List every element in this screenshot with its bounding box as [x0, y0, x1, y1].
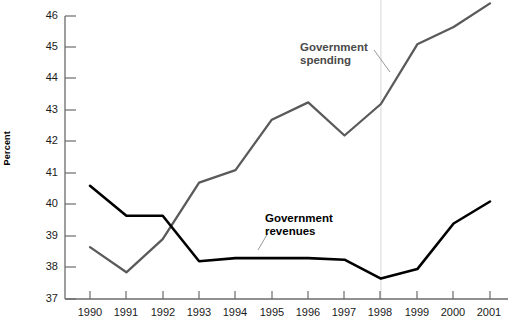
- x-tick-label-1990: 1990: [70, 306, 110, 318]
- y-axis-ticks: [65, 16, 76, 299]
- x-tick-label-1992: 1992: [143, 306, 183, 318]
- x-tick-label-1991: 1991: [106, 306, 146, 318]
- series-label-government-spending: Government spending: [300, 41, 368, 67]
- leader-line-spending: [374, 50, 390, 72]
- y-tick-label-43: 43: [28, 103, 58, 115]
- x-tick-label-1999: 1999: [397, 306, 437, 318]
- y-tick-label-37: 37: [28, 292, 58, 304]
- series-label-revenues-line1: Government: [265, 212, 333, 225]
- chart-container: Percent 46 45 44 43 42 41 40 39 38 37 19…: [0, 0, 509, 328]
- y-tick-label-42: 42: [28, 134, 58, 146]
- x-tick-label-1996: 1996: [288, 306, 328, 318]
- y-axis-title: Percent: [2, 131, 16, 165]
- chart-plot-area: [0, 0, 509, 328]
- y-tick-label-38: 38: [28, 260, 58, 272]
- series-label-spending-line2: spending: [300, 54, 368, 67]
- x-tick-label-1998: 1998: [360, 306, 400, 318]
- series-label-revenues-line2: revenues: [265, 225, 333, 238]
- y-tick-label-40: 40: [28, 197, 58, 209]
- y-tick-label-44: 44: [28, 71, 58, 83]
- series-label-spending-line1: Government: [300, 41, 368, 54]
- x-tick-label-1997: 1997: [324, 306, 364, 318]
- y-tick-label-41: 41: [28, 166, 58, 178]
- x-tick-label-1995: 1995: [252, 306, 292, 318]
- y-tick-label-46: 46: [28, 9, 58, 21]
- x-axis-ticks: [90, 291, 490, 299]
- x-tick-label-1993: 1993: [179, 306, 219, 318]
- x-tick-label-1994: 1994: [215, 306, 255, 318]
- x-tick-label-2001: 2001: [469, 306, 509, 318]
- y-tick-label-45: 45: [28, 40, 58, 52]
- x-tick-label-2000: 2000: [433, 306, 473, 318]
- y-tick-label-39: 39: [28, 229, 58, 241]
- series-label-government-revenues: Government revenues: [265, 212, 333, 238]
